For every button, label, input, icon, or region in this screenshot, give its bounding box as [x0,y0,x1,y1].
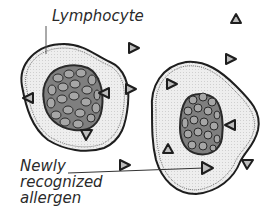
allergen-triangle-icon [226,54,236,64]
newly-recognized-allergen-label: Newly recognized allergen [20,158,103,206]
allergen-triangle-icon [126,84,136,94]
allergen-label-line-1: Newly [20,158,103,174]
allergen-triangle-icon [231,14,241,23]
right-nucleus [180,93,223,154]
allergen-triangle-icon [242,160,253,169]
allergen-label-line-2: recognized [20,174,103,190]
left-lymphocyte [21,44,128,151]
allergen-triangle-icon [120,160,130,170]
allergen-label-line-3: allergen [20,190,103,206]
left-nucleus [43,65,102,130]
allergen-triangle-icon [129,43,139,53]
lymphocyte-label: Lymphocyte [52,8,144,24]
